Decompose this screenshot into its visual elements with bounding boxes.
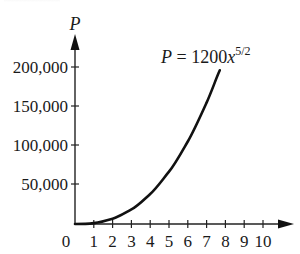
y-tick-label: 100,000 [13, 136, 68, 155]
x-tick-label: 8 [221, 232, 230, 251]
equation-var: x [226, 47, 235, 67]
x-tick-label: 1 [90, 232, 99, 251]
x-tick-label: 2 [108, 232, 117, 251]
equation-exponent: 5/2 [235, 44, 250, 58]
x-tick-label: 9 [240, 232, 249, 251]
power-function-chart: 50,000 100,000 150,000 200,000 0 1 2 3 4… [0, 0, 300, 254]
power-curve [75, 70, 220, 224]
y-tick-label: 50,000 [21, 175, 68, 194]
y-tick-label: 200,000 [13, 58, 68, 77]
y-axis-arrow-icon [71, 34, 80, 50]
y-tick-label: 150,000 [13, 97, 68, 116]
x-tick-label: 7 [202, 232, 211, 251]
equation-equals: = [172, 47, 191, 67]
x-tick-label: 5 [165, 232, 174, 251]
equation-lhs: P [160, 47, 172, 67]
x-axis-arrow-icon [278, 220, 294, 229]
origin-label: 0 [62, 232, 71, 251]
equation-coef: 1200 [191, 47, 227, 67]
x-tick-label: 4 [146, 232, 155, 251]
x-tick-label: 10 [255, 232, 272, 251]
x-tick-label: 3 [127, 232, 136, 251]
y-axis-title: P [69, 14, 81, 34]
x-tick-label: 6 [184, 232, 193, 251]
equation-label: P = 1200x5/2 [160, 44, 251, 67]
chart-svg: 50,000 100,000 150,000 200,000 0 1 2 3 4… [0, 0, 300, 254]
